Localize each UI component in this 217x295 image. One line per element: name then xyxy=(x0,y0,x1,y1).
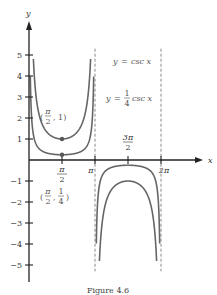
series-csc-branch-2 xyxy=(99,181,156,261)
svg-text:=: = xyxy=(121,57,128,66)
legend-entry-quarter-csc: y = 1 4 csc x xyxy=(105,89,153,108)
series-csc-branch-1 xyxy=(33,59,90,139)
y-tick-label: 4 xyxy=(17,72,22,81)
svg-text:4: 4 xyxy=(124,99,129,108)
svg-text:1: 1 xyxy=(124,89,129,98)
y-tick-label: 5 xyxy=(17,51,22,60)
y-tick-label: 3 xyxy=(17,93,22,102)
svg-text:csc x: csc x xyxy=(131,57,152,66)
y-tick-label: 1 xyxy=(17,135,22,144)
y-tick-label: −5 xyxy=(10,261,22,270)
svg-text:(: ( xyxy=(40,113,43,122)
x-tick-label: π xyxy=(87,166,94,175)
svg-text:y: y xyxy=(105,94,111,103)
y-axis-label: y xyxy=(25,9,31,18)
svg-text:,: , xyxy=(53,193,56,202)
y-tick-label: −1 xyxy=(10,177,22,186)
svg-text:csc x: csc x xyxy=(132,94,153,103)
svg-text:y: y xyxy=(112,57,118,66)
y-tick-label: −4 xyxy=(10,240,22,249)
data-point-2 xyxy=(60,153,64,157)
x-tick-label-den: 2 xyxy=(59,175,64,184)
annotation-point-1: ( π 2 , 1) xyxy=(40,107,66,126)
svg-text:2: 2 xyxy=(45,197,50,206)
svg-text:π: π xyxy=(44,187,51,196)
y-tick-label: −2 xyxy=(10,198,22,207)
svg-text:(: ( xyxy=(40,193,43,202)
x-axis-label: x xyxy=(208,156,213,165)
y-tick-label: 2 xyxy=(17,114,22,123)
svg-text:, 1): , 1) xyxy=(53,113,66,122)
x-tick-label-num: 3π xyxy=(123,133,134,142)
axes: x y xyxy=(25,9,213,282)
points xyxy=(60,137,64,157)
legend-entry-csc: y = csc x xyxy=(112,57,152,66)
figure-caption: Figure 4.6 xyxy=(87,286,129,295)
chart: x y 54321−1−2−3−4−5π2π3π22π ( π 2 , 1) (… xyxy=(0,0,217,295)
y-tick-label: −3 xyxy=(10,219,22,228)
annotation-point-2: ( π 2 , 1 4 ) xyxy=(40,187,69,206)
svg-text:=: = xyxy=(114,94,121,103)
svg-text:π: π xyxy=(44,107,51,116)
data-point-1 xyxy=(60,137,64,141)
svg-text:1: 1 xyxy=(58,187,63,196)
x-tick-label-num: π xyxy=(58,165,65,174)
svg-text:): ) xyxy=(66,193,69,202)
svg-text:2: 2 xyxy=(45,117,50,126)
x-axis-arrow-icon xyxy=(195,157,203,163)
svg-text:4: 4 xyxy=(58,197,63,206)
y-axis-arrow-icon xyxy=(26,21,32,30)
x-tick-label: 2π xyxy=(158,166,170,175)
x-tick-label-den: 2 xyxy=(125,143,130,152)
